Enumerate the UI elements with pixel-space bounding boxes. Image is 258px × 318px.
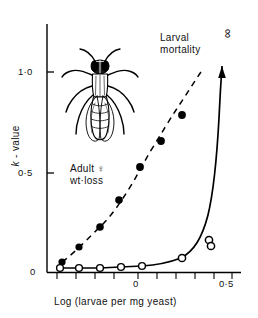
data-point-filled <box>178 111 186 119</box>
data-point-open <box>97 265 104 272</box>
y-axis-title-rest: - value <box>10 125 21 161</box>
y-axis-title: k - value <box>10 116 22 176</box>
chart-canvas <box>0 0 258 318</box>
figure-panel: 1·0 0·5 0 0 0·5 Log (larvae per mg yeast… <box>0 0 258 318</box>
y-tick-label-0: 0 <box>30 266 36 277</box>
infinity-symbol: ∞ <box>221 29 236 38</box>
annotation-larval-mortality: Larvalmortality <box>160 32 200 56</box>
y-tick-label-1-0: 1·0 <box>18 66 33 77</box>
data-point-filled <box>157 137 165 145</box>
data-point-open <box>118 264 125 271</box>
data-point-filled <box>115 196 123 204</box>
axis-lines <box>47 24 241 273</box>
arrowhead-infinity <box>218 66 226 78</box>
annotation-adult-wt-loss: Adult ♀wt·loss <box>70 163 105 187</box>
annotation-adult-line1: Adult ♀ <box>70 163 105 174</box>
x-tick-label-0: 0 <box>133 278 139 289</box>
annotation-larval-line2: mortality <box>160 44 200 55</box>
annotation-adult-line2: wt·loss <box>70 175 103 186</box>
data-point-open <box>76 265 83 272</box>
data-point-filled <box>136 163 144 171</box>
annotation-larval-line1: Larval <box>160 32 189 43</box>
data-point-open <box>178 254 185 261</box>
x-tick-label-0-5: 0·5 <box>219 278 234 289</box>
fly-illustration <box>62 49 138 141</box>
data-point-open <box>207 242 214 249</box>
data-point-open <box>139 263 146 270</box>
y-axis-title-symbol: k <box>10 161 21 166</box>
data-point-filled <box>75 243 82 250</box>
data-point-filled <box>96 223 104 231</box>
x-axis-title: Log (larvae per mg yeast) <box>54 296 177 308</box>
data-point-open <box>57 265 64 272</box>
y-axis-ticks <box>47 72 54 173</box>
x-axis-ticks <box>57 273 232 280</box>
